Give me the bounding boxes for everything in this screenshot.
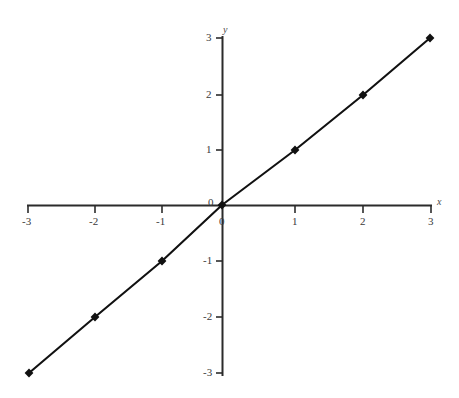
x-axis-label: x bbox=[437, 197, 441, 207]
cartesian-plot bbox=[0, 0, 459, 398]
x-tick-label-neg2: -2 bbox=[89, 216, 98, 227]
y-tick-label-0: 0 bbox=[208, 197, 214, 208]
y-tick-label-neg2: -2 bbox=[203, 311, 212, 322]
y-axis-label: y bbox=[223, 25, 227, 35]
graph-figure: y x 3 2 1 0 -1 -2 -3 -3 -2 -1 0 1 2 3 bbox=[0, 0, 459, 398]
x-tick-label-3: 3 bbox=[428, 216, 434, 227]
y-tick-label-neg1: -1 bbox=[203, 255, 212, 266]
x-tick-label-neg1: -1 bbox=[156, 216, 165, 227]
x-tick-label-neg3: -3 bbox=[22, 216, 31, 227]
y-tick-label-1: 1 bbox=[206, 144, 212, 155]
x-tick-label-1: 1 bbox=[292, 216, 298, 227]
y-tick-label-2: 2 bbox=[206, 89, 212, 100]
y-tick-label-3: 3 bbox=[206, 32, 212, 43]
x-tick-label-0: 0 bbox=[219, 216, 225, 227]
x-axis-ticks bbox=[28, 206, 431, 213]
x-tick-label-2: 2 bbox=[360, 216, 366, 227]
y-tick-label-neg3: -3 bbox=[203, 367, 212, 378]
